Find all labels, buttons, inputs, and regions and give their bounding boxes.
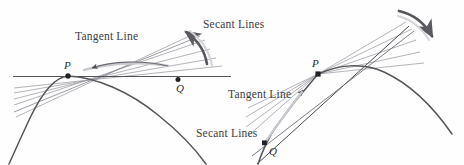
left-curve-left-branch [9, 76, 68, 164]
right-curve [318, 66, 452, 134]
left-curve [68, 76, 206, 164]
left-point-p-label: P [64, 59, 71, 71]
right-secant-lines [318, 22, 424, 74]
left-secant-5 [16, 33, 196, 117]
right-secant-3 [318, 52, 420, 74]
right-secant-lines-label: Secant Lines [196, 127, 257, 139]
left-secant-lines-label: Secant Lines [203, 18, 264, 30]
right-point-p-label: P [312, 57, 319, 69]
right-point-p [315, 71, 320, 76]
left-secant-through-q [14, 36, 200, 112]
right-tangent-line-label: Tangent Line [228, 88, 291, 100]
left-tangent-line-label: Tangent Line [75, 30, 138, 42]
left-point-q-label: Q [176, 82, 184, 94]
tangent-secant-figure: Tangent Line Secant Lines P Q Tangent Li… [0, 0, 464, 165]
left-diagram-group [9, 31, 231, 164]
right-point-q-label: Q [269, 145, 277, 157]
left-point-p [65, 73, 70, 78]
left-secant-lines [14, 33, 222, 117]
right-rotation-arrow-shadow [398, 16, 429, 40]
right-point-q [262, 140, 267, 145]
right-secant-lower-4 [248, 74, 318, 136]
